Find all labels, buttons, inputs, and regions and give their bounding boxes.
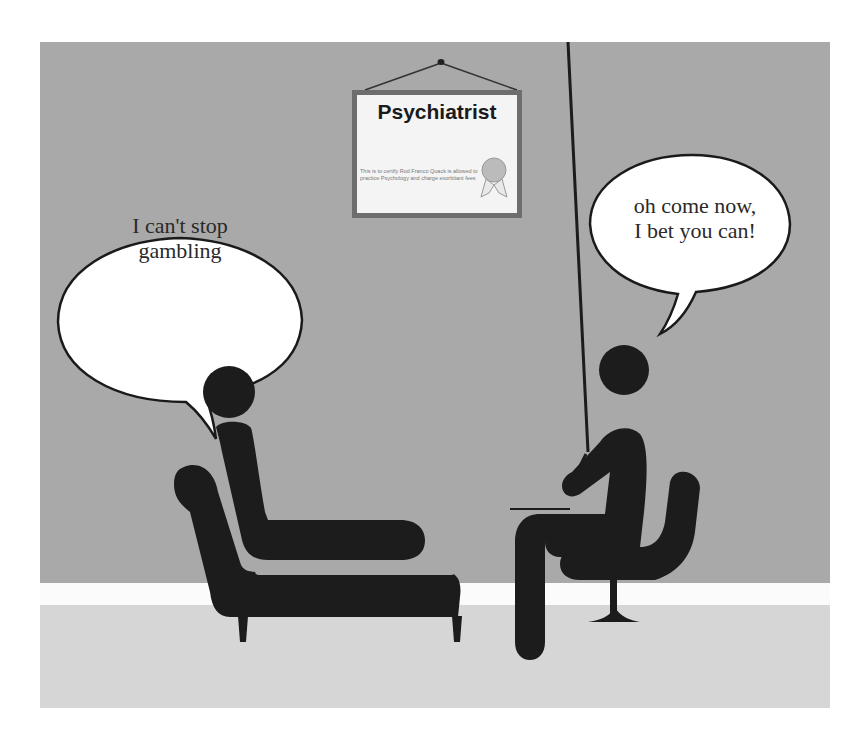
pen-icon xyxy=(568,42,588,452)
psychiatrist-speech-text: oh come now, I bet you can! xyxy=(595,193,795,243)
clipboard-icon xyxy=(510,508,570,510)
patient-speech-text: I can't stop gambling xyxy=(80,213,280,263)
cartoon-scene: Psychiatrist This is to certify Rod Fran… xyxy=(40,42,830,708)
patient-speech-line-2: gambling xyxy=(80,238,280,263)
patient-speech-line-1: I can't stop xyxy=(80,213,280,238)
psychiatrist-speech-line-1: oh come now, xyxy=(595,193,795,218)
patient-speech-bubble xyxy=(58,238,302,439)
certificate-hanger-icon xyxy=(365,59,517,90)
psychiatrist-speech-line-2: I bet you can! xyxy=(595,218,795,243)
certificate-title: Psychiatrist xyxy=(352,100,522,124)
patient-figure-icon xyxy=(203,366,425,560)
certificate-body-text: This is to certify Rod Franco Quack is a… xyxy=(360,168,480,181)
scene-illustration xyxy=(40,42,830,708)
psychiatrist-speech-bubble xyxy=(590,155,790,334)
